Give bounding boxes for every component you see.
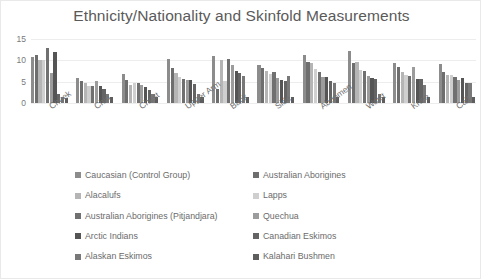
bar: [87, 86, 90, 103]
bar: [272, 72, 275, 103]
bar-group: [257, 39, 294, 103]
bar: [439, 64, 442, 103]
chart-legend: Caucasian (Control Group)Australian Abor…: [75, 165, 415, 267]
bar: [355, 62, 358, 103]
legend-label: Quechua: [263, 212, 299, 221]
bar: [167, 59, 170, 103]
bar: [363, 71, 366, 103]
legend-label: Australian Aborigines (Pitjandjara): [85, 212, 218, 221]
bar: [42, 60, 45, 103]
bar: [404, 75, 407, 103]
bar: [306, 62, 309, 103]
legend-swatch-icon: [253, 254, 259, 260]
bar: [38, 60, 41, 103]
bar: [265, 71, 268, 103]
bar: [397, 67, 400, 103]
bar: [227, 59, 230, 103]
legend-item[interactable]: Lapps: [253, 191, 287, 200]
bar: [129, 85, 132, 103]
legend-swatch-icon: [253, 233, 259, 239]
bar: [359, 70, 362, 103]
bar-group: [76, 39, 113, 103]
bar: [80, 81, 83, 103]
bar: [408, 76, 411, 103]
legend-label: Alacalufs: [85, 191, 121, 200]
bar: [31, 57, 34, 103]
legend-item[interactable]: Australian Aborigines (Pitjandjara): [75, 212, 253, 221]
legend-label: Lapps: [263, 191, 287, 200]
legend-item[interactable]: Alacalufs: [75, 191, 253, 200]
bar: [182, 79, 185, 103]
y-axis-tick-label: 10: [17, 56, 26, 65]
legend-item[interactable]: Kalahari Bushmen: [253, 252, 335, 261]
legend-label: Canadian Eskimos: [263, 232, 336, 241]
legend-label: Arctic Indians: [85, 232, 138, 241]
bar: [269, 74, 272, 103]
legend-item[interactable]: Australian Aborigines: [253, 171, 346, 180]
y-axis: 051015: [1, 39, 29, 103]
bar: [446, 75, 449, 103]
legend-row: Arctic IndiansCanadian Eskimos: [75, 226, 415, 246]
bar: [220, 60, 223, 103]
y-axis-tick-label: 5: [21, 77, 26, 86]
legend-swatch-icon: [75, 172, 81, 178]
legend-swatch-icon: [253, 193, 259, 199]
legend-swatch-icon: [75, 213, 81, 219]
legend-row: Caucasian (Control Group)Australian Abor…: [75, 165, 415, 185]
y-axis-tick-label: 0: [21, 99, 26, 108]
bar: [122, 74, 125, 103]
chart-card: Ethnicity/Nationality and Skinfold Measu…: [0, 0, 481, 279]
legend-item[interactable]: Canadian Eskimos: [253, 232, 336, 241]
bar: [318, 72, 321, 103]
bar: [348, 51, 351, 103]
bar-groups: [31, 39, 476, 103]
bar: [46, 48, 49, 103]
bar: [257, 65, 260, 103]
bar: [216, 89, 219, 103]
bar: [352, 63, 355, 103]
legend-row: Alaskan EskimosKalahari Bushmen: [75, 247, 415, 267]
bar: [310, 63, 313, 103]
legend-label: Alaskan Eskimos: [85, 252, 152, 261]
legend-swatch-icon: [253, 172, 259, 178]
plot-canvas: [31, 39, 476, 103]
legend-row: AlacalufsLapps: [75, 185, 415, 205]
legend-row: Australian Aborigines (Pitjandjara)Quech…: [75, 206, 415, 226]
legend-item[interactable]: Arctic Indians: [75, 232, 253, 241]
legend-swatch-icon: [253, 213, 259, 219]
y-axis-tick-label: 15: [17, 35, 26, 44]
chart-title: Ethnicity/Nationality and Skinfold Measu…: [1, 7, 481, 25]
bar: [261, 68, 264, 103]
bar: [84, 83, 87, 103]
legend-swatch-icon: [75, 193, 81, 199]
legend-label: Caucasian (Control Group): [85, 171, 190, 180]
legend-label: Kalahari Bushmen: [263, 252, 335, 261]
legend-item[interactable]: Caucasian (Control Group): [75, 171, 253, 180]
legend-item[interactable]: Quechua: [253, 212, 299, 221]
bar: [174, 73, 177, 103]
x-axis: CheekChinChestUpper ArmBackSideAbdomenWa…: [31, 103, 474, 149]
bar: [393, 63, 396, 103]
bar: [125, 80, 128, 103]
bar: [178, 77, 181, 103]
bar: [303, 55, 306, 103]
bar: [442, 72, 445, 103]
legend-swatch-icon: [75, 254, 81, 260]
bar: [133, 83, 136, 103]
bar: [314, 69, 317, 103]
bar: [171, 68, 174, 103]
bar: [223, 81, 226, 103]
bar: [453, 77, 456, 103]
legend-swatch-icon: [75, 233, 81, 239]
legend-label: Australian Aborigines: [263, 171, 346, 180]
bar: [401, 72, 404, 103]
bar: [231, 65, 234, 103]
bar: [35, 55, 38, 103]
bar: [450, 75, 453, 103]
bar: [76, 78, 79, 103]
legend-item[interactable]: Alaskan Eskimos: [75, 252, 253, 261]
bar-group: [439, 39, 476, 103]
